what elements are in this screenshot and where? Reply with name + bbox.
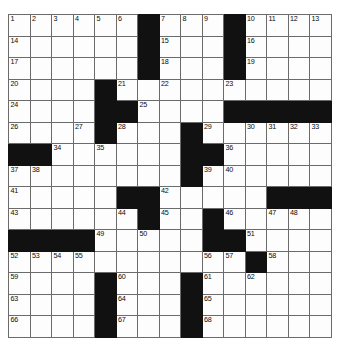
crossword-cell[interactable] xyxy=(30,79,52,101)
crossword-cell[interactable] xyxy=(138,294,160,316)
crossword-cell[interactable] xyxy=(116,36,138,58)
crossword-cell[interactable]: 38 xyxy=(30,165,52,187)
crossword-cell[interactable]: 42 xyxy=(159,187,181,209)
crossword-cell[interactable]: 17 xyxy=(9,58,31,80)
crossword-cell[interactable] xyxy=(159,294,181,316)
crossword-cell[interactable] xyxy=(181,79,203,101)
crossword-cell[interactable] xyxy=(52,187,74,209)
crossword-cell[interactable]: 43 xyxy=(9,208,31,230)
crossword-cell[interactable]: 25 xyxy=(138,101,160,123)
crossword-cell[interactable] xyxy=(245,165,267,187)
crossword-cell[interactable]: 34 xyxy=(52,144,74,166)
crossword-cell[interactable] xyxy=(30,58,52,80)
crossword-cell[interactable] xyxy=(267,36,289,58)
crossword-cell[interactable]: 54 xyxy=(52,251,74,273)
crossword-cell[interactable]: 22 xyxy=(159,79,181,101)
crossword-cell[interactable]: 40 xyxy=(224,165,246,187)
crossword-cell[interactable] xyxy=(52,294,74,316)
crossword-cell[interactable] xyxy=(73,101,95,123)
crossword-cell[interactable] xyxy=(181,251,203,273)
crossword-cell[interactable] xyxy=(245,144,267,166)
crossword-cell[interactable] xyxy=(52,79,74,101)
crossword-cell[interactable] xyxy=(310,230,332,252)
crossword-cell[interactable] xyxy=(73,273,95,295)
crossword-cell[interactable]: 18 xyxy=(159,58,181,80)
crossword-cell[interactable] xyxy=(288,251,310,273)
crossword-cell[interactable] xyxy=(73,165,95,187)
crossword-cell[interactable] xyxy=(202,79,224,101)
crossword-cell[interactable]: 15 xyxy=(159,36,181,58)
crossword-cell[interactable] xyxy=(73,58,95,80)
crossword-cell[interactable] xyxy=(138,122,160,144)
crossword-cell[interactable] xyxy=(224,273,246,295)
crossword-cell[interactable] xyxy=(30,316,52,338)
crossword-cell[interactable]: 12 xyxy=(288,15,310,37)
crossword-cell[interactable]: 33 xyxy=(310,122,332,144)
crossword-cell[interactable] xyxy=(202,36,224,58)
crossword-cell[interactable]: 59 xyxy=(9,273,31,295)
crossword-cell[interactable]: 26 xyxy=(9,122,31,144)
crossword-cell[interactable]: 10 xyxy=(245,15,267,37)
crossword-cell[interactable] xyxy=(288,36,310,58)
crossword-cell[interactable]: 32 xyxy=(288,122,310,144)
crossword-cell[interactable]: 58 xyxy=(267,251,289,273)
crossword-cell[interactable] xyxy=(73,144,95,166)
crossword-cell[interactable]: 28 xyxy=(116,122,138,144)
crossword-cell[interactable] xyxy=(288,273,310,295)
crossword-cell[interactable] xyxy=(73,316,95,338)
crossword-cell[interactable]: 67 xyxy=(116,316,138,338)
crossword-cell[interactable] xyxy=(202,101,224,123)
crossword-cell[interactable] xyxy=(288,230,310,252)
crossword-cell[interactable] xyxy=(181,58,203,80)
crossword-cell[interactable]: 8 xyxy=(181,15,203,37)
crossword-cell[interactable] xyxy=(267,294,289,316)
crossword-cell[interactable] xyxy=(267,230,289,252)
crossword-cell[interactable]: 57 xyxy=(224,251,246,273)
crossword-cell[interactable]: 7 xyxy=(159,15,181,37)
crossword-cell[interactable]: 64 xyxy=(116,294,138,316)
crossword-cell[interactable] xyxy=(73,79,95,101)
crossword-cell[interactable] xyxy=(267,316,289,338)
crossword-cell[interactable]: 4 xyxy=(73,15,95,37)
crossword-cell[interactable]: 37 xyxy=(9,165,31,187)
crossword-cell[interactable] xyxy=(310,273,332,295)
crossword-cell[interactable]: 41 xyxy=(9,187,31,209)
crossword-cell[interactable]: 31 xyxy=(267,122,289,144)
crossword-cell[interactable] xyxy=(52,208,74,230)
crossword-cell[interactable]: 65 xyxy=(202,294,224,316)
crossword-cell[interactable] xyxy=(245,294,267,316)
crossword-cell[interactable] xyxy=(310,165,332,187)
crossword-cell[interactable] xyxy=(224,316,246,338)
crossword-cell[interactable]: 9 xyxy=(202,15,224,37)
crossword-cell[interactable] xyxy=(181,208,203,230)
crossword-cell[interactable]: 21 xyxy=(116,79,138,101)
crossword-cell[interactable] xyxy=(310,58,332,80)
crossword-cell[interactable]: 53 xyxy=(30,251,52,273)
crossword-cell[interactable]: 62 xyxy=(245,273,267,295)
crossword-cell[interactable] xyxy=(181,101,203,123)
crossword-cell[interactable]: 66 xyxy=(9,316,31,338)
crossword-cell[interactable] xyxy=(181,36,203,58)
crossword-cell[interactable] xyxy=(52,316,74,338)
crossword-cell[interactable]: 44 xyxy=(116,208,138,230)
crossword-cell[interactable] xyxy=(52,36,74,58)
crossword-cell[interactable] xyxy=(30,208,52,230)
crossword-cell[interactable]: 56 xyxy=(202,251,224,273)
crossword-cell[interactable]: 6 xyxy=(116,15,138,37)
crossword-cell[interactable]: 45 xyxy=(159,208,181,230)
crossword-cell[interactable] xyxy=(288,58,310,80)
crossword-cell[interactable] xyxy=(138,273,160,295)
crossword-cell[interactable]: 39 xyxy=(202,165,224,187)
crossword-cell[interactable] xyxy=(288,79,310,101)
crossword-cell[interactable]: 63 xyxy=(9,294,31,316)
crossword-cell[interactable] xyxy=(202,58,224,80)
crossword-cell[interactable]: 23 xyxy=(224,79,246,101)
crossword-cell[interactable]: 36 xyxy=(224,144,246,166)
crossword-cell[interactable] xyxy=(116,144,138,166)
crossword-cell[interactable] xyxy=(52,58,74,80)
crossword-cell[interactable] xyxy=(30,273,52,295)
crossword-cell[interactable]: 60 xyxy=(116,273,138,295)
crossword-cell[interactable] xyxy=(310,36,332,58)
crossword-cell[interactable] xyxy=(52,122,74,144)
crossword-cell[interactable] xyxy=(310,294,332,316)
